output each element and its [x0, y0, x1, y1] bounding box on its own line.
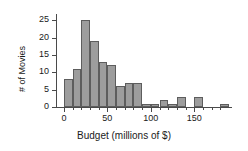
x-axis-tick-label: 100	[143, 113, 158, 123]
plot-area	[57, 17, 229, 107]
histogram-bar	[142, 104, 151, 107]
y-axis-tick	[52, 90, 56, 91]
x-axis-label: Budget (millions of $)	[0, 130, 248, 141]
y-axis-tick-label: 25	[39, 15, 49, 24]
x-axis-minor-tick	[160, 107, 161, 110]
histogram-bar	[168, 104, 177, 107]
x-axis-tick-label: 50	[102, 113, 112, 123]
x-axis-minor-tick	[90, 107, 91, 110]
x-axis-tick	[151, 107, 152, 112]
x-axis-minor-tick	[212, 107, 213, 110]
y-axis-tick-label: 5	[44, 85, 49, 94]
y-axis-label-holder: # of Movies	[10, 20, 24, 100]
y-axis-tick	[52, 55, 56, 56]
histogram-bar	[133, 83, 142, 107]
x-axis-minor-tick	[142, 107, 143, 110]
x-axis-minor-tick	[220, 107, 221, 110]
histogram-bar	[160, 100, 169, 107]
histogram-bar	[177, 97, 186, 107]
histogram-bar	[220, 104, 229, 107]
histogram-bar	[81, 20, 90, 107]
histogram-figure: 0510152025 # of Movies Budget (millions …	[0, 0, 248, 151]
x-axis-minor-tick	[81, 107, 82, 110]
x-axis-minor-tick	[99, 107, 100, 110]
histogram-bar	[194, 97, 203, 107]
histogram-bar	[99, 62, 108, 107]
y-axis-tick-label: 0	[44, 102, 49, 111]
x-axis-minor-tick	[186, 107, 187, 110]
histogram-bar	[116, 86, 125, 107]
y-axis-tick-label: 20	[39, 33, 49, 42]
x-axis-minor-tick	[133, 107, 134, 110]
x-axis-tick-label: 0	[61, 113, 66, 123]
x-axis-minor-tick	[125, 107, 126, 110]
x-axis-tick-label: 150	[187, 113, 202, 123]
histogram-bar	[64, 79, 73, 107]
y-axis-tick-label: 10	[39, 67, 49, 76]
histogram-bar	[125, 83, 134, 107]
x-axis-minor-tick	[203, 107, 204, 110]
y-axis-tick	[52, 72, 56, 73]
x-axis-minor-tick	[168, 107, 169, 110]
x-axis-minor-tick	[73, 107, 74, 110]
y-axis-tick	[52, 38, 56, 39]
x-axis-minor-tick	[116, 107, 117, 110]
histogram-bar	[151, 104, 160, 107]
y-axis-tick	[52, 107, 56, 108]
histogram-bar	[73, 69, 82, 107]
x-axis-tick	[194, 107, 195, 112]
y-axis-tick	[52, 20, 56, 21]
x-axis-minor-tick	[177, 107, 178, 110]
y-axis-tick-label: 15	[39, 50, 49, 59]
histogram-bar	[107, 65, 116, 107]
x-axis-line	[56, 107, 232, 108]
x-axis-tick	[107, 107, 108, 112]
y-axis-ticks: 0510152025	[0, 0, 56, 151]
histogram-bar	[90, 41, 99, 107]
y-axis-label: # of Movies	[17, 29, 27, 109]
x-axis-tick	[64, 107, 65, 112]
